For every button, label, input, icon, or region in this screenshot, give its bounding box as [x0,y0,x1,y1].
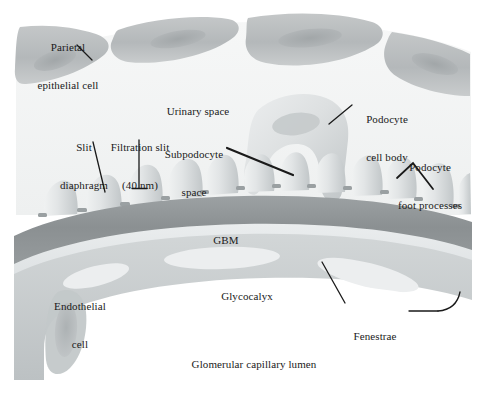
slit-diaphragm [307,184,316,188]
slit-diaphragm [343,186,352,190]
slit-diaphragm [200,190,209,194]
slit-diaphragm [272,184,281,188]
slit-diaphragm [161,196,170,200]
slit-diaphragm [236,186,245,190]
slit-diaphragm [38,213,47,217]
glomerular-capillary-lumen-region [88,282,472,382]
slit-diaphragm [380,190,389,194]
glomerular-filtration-barrier-figure: Parietal epithelial cell Urinary space S… [0,0,487,399]
slit-diaphragm [414,197,423,201]
diagram-canvas [0,0,487,399]
slit-diaphragm [451,204,460,208]
slit-diaphragm [77,208,87,212]
